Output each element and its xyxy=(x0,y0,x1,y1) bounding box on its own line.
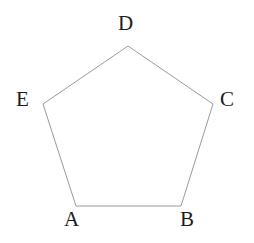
pentagon-shape-svg xyxy=(0,0,254,243)
vertex-label-c: C xyxy=(220,89,234,110)
vertex-label-e: E xyxy=(16,89,29,110)
pentagon-outline xyxy=(43,46,213,206)
vertex-label-a: A xyxy=(64,209,79,230)
vertex-label-d: D xyxy=(118,13,133,34)
vertex-label-b: B xyxy=(180,209,194,230)
pentagon-figure: D E C A B xyxy=(0,0,254,243)
